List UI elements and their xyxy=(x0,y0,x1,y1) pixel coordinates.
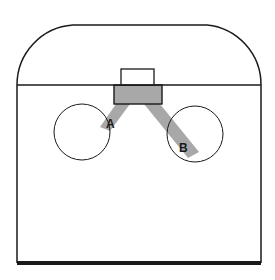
strip-a xyxy=(100,104,130,131)
diagram-canvas: A B xyxy=(0,0,275,280)
label-b: B xyxy=(179,141,188,155)
left-circle xyxy=(54,104,110,160)
top-box xyxy=(121,69,154,85)
shaded-box xyxy=(114,85,162,104)
outer-outline xyxy=(17,25,261,263)
label-a: A xyxy=(106,117,115,131)
